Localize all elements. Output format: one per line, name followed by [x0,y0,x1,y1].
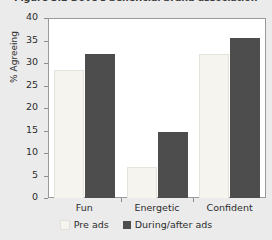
y-tick-label: 40 [0,12,38,22]
legend-swatch-icon [123,221,131,229]
chart-legend: Pre adsDuring/after ads [0,219,272,230]
y-tick-mark [44,18,48,19]
y-tick-mark [44,131,48,132]
x-tick-label: Confident [185,202,272,213]
legend-entry-during-after-ads: During/after ads [123,219,212,230]
chart-figure: Figure 3.2 Dove's beneficial brand assoc… [0,0,272,240]
legend-label: Pre ads [74,219,109,230]
bar-fun-during-after-ads [85,54,115,198]
y-tick-label: 30 [0,57,38,67]
y-tick-mark [44,153,48,154]
legend-entry-pre-ads: Pre ads [60,219,109,230]
y-tick-label: 10 [0,147,38,157]
legend-swatch-icon [60,220,70,230]
y-tick-mark [44,198,48,199]
y-tick-label: 15 [0,125,38,135]
bar-confident-pre-ads [199,54,229,198]
bar-fun-pre-ads [54,70,84,198]
y-tick-label: 35 [0,35,38,45]
y-tick-mark [44,86,48,87]
bar-confident-during-after-ads [230,38,260,198]
y-tick-label: 5 [0,170,38,180]
y-tick-mark [44,176,48,177]
bar-energetic-during-after-ads [158,132,188,198]
y-tick-label: 20 [0,102,38,112]
y-tick-mark [44,63,48,64]
y-tick-label: 25 [0,80,38,90]
y-tick-label: 0 [0,192,38,202]
chart-title: Figure 3.2 Dove's beneficial brand assoc… [14,0,272,4]
legend-label: During/after ads [135,219,212,230]
bar-energetic-pre-ads [127,167,157,199]
y-tick-mark [44,41,48,42]
y-tick-mark [44,108,48,109]
